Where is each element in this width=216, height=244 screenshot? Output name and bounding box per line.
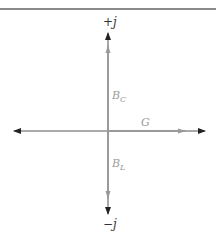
bl-label-main: B xyxy=(111,157,120,170)
bl-label: BL xyxy=(111,157,125,172)
positive-j-label: +j xyxy=(103,15,117,29)
g-label: G xyxy=(141,116,150,129)
bc-label-main: B xyxy=(111,89,120,102)
negative-j-label: −j xyxy=(103,217,117,231)
phasor-diagram: +j −j G BC BL xyxy=(0,0,216,244)
bl-label-sub: L xyxy=(119,163,125,172)
bc-label-sub: C xyxy=(120,95,126,104)
bc-label: BC xyxy=(111,89,126,104)
